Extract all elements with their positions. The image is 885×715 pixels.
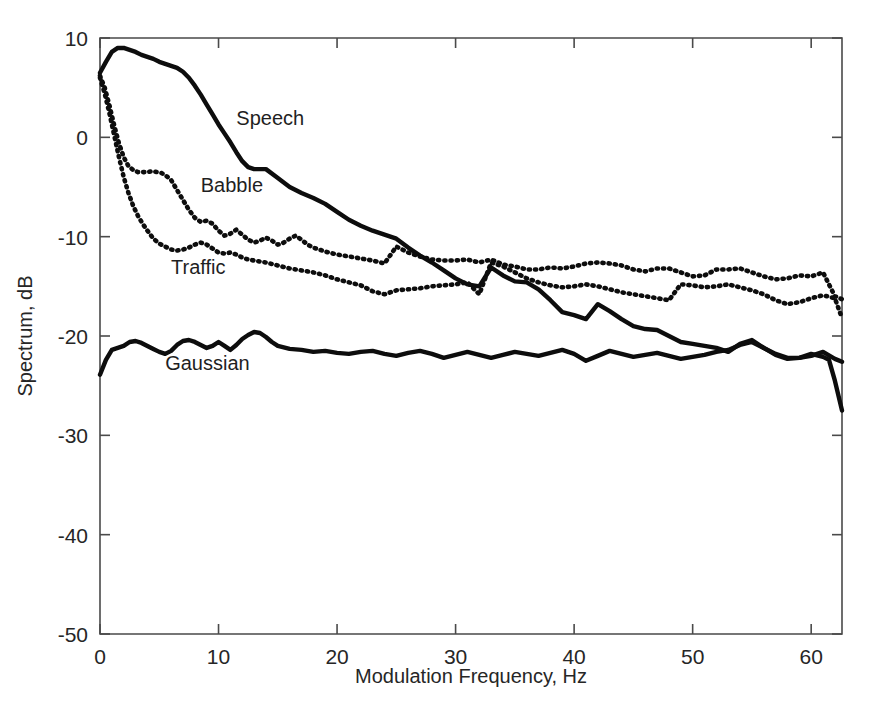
x-tick-label: 20 xyxy=(325,645,348,668)
x-axis-title: Modulation Frequency, Hz xyxy=(355,665,587,687)
y-tick-label: -20 xyxy=(58,325,88,348)
series-label-babble: Babble xyxy=(201,174,263,196)
series-label-speech: Speech xyxy=(236,107,304,129)
x-tick-label: 50 xyxy=(681,645,704,668)
x-tick-label: 0 xyxy=(94,645,106,668)
y-axis-title: Spectrum, dB xyxy=(14,275,36,396)
y-tick-label: 0 xyxy=(76,126,88,149)
y-tick-label: 10 xyxy=(65,27,88,50)
figure-container: 100-10-20-30-40-50 0102030405060 SpeechB… xyxy=(0,0,885,715)
y-tick-label: -30 xyxy=(58,424,88,447)
series-label-traffic: Traffic xyxy=(171,256,225,278)
x-tick-label: 10 xyxy=(207,645,230,668)
y-tick-label: -50 xyxy=(58,623,88,646)
y-tick-label: -40 xyxy=(58,524,88,547)
series-label-gaussian: Gaussian xyxy=(165,352,250,374)
x-tick-label: 60 xyxy=(800,645,823,668)
y-tick-label: -10 xyxy=(58,226,88,249)
modulation-spectrum-chart: 100-10-20-30-40-50 0102030405060 SpeechB… xyxy=(0,0,885,715)
